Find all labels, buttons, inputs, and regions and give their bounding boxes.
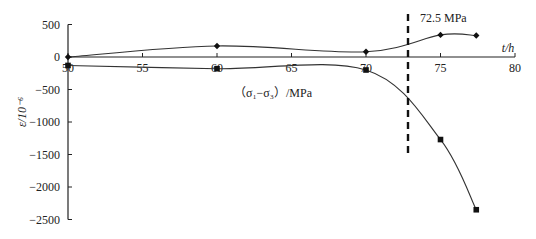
x-tick-label: 55 (137, 61, 149, 75)
y-tick-label: 500 (42, 18, 60, 32)
y-tick-label: −1000 (29, 115, 60, 129)
diamond-marker (214, 43, 220, 49)
x-tick-label: 75 (435, 61, 447, 75)
series-line (68, 34, 476, 57)
y-tick-label: −1500 (29, 148, 60, 162)
y-tick-label: −500 (35, 83, 60, 97)
square-marker (438, 137, 444, 143)
diamond-marker (473, 32, 479, 38)
axes: 5000−500−1000−1500−2000−2500505560657075… (15, 18, 521, 227)
square-marker (473, 207, 479, 213)
stress-axis-label: （σ₁−σ₃）/MPa (234, 86, 313, 100)
series-group (65, 32, 480, 213)
x-tick-label: 80 (509, 61, 521, 75)
diamond-marker (363, 49, 369, 55)
square-marker (363, 67, 369, 73)
y-tick-label: −2000 (29, 180, 60, 194)
square-marker (214, 66, 220, 72)
x-tick-label: 65 (286, 61, 298, 75)
diamond-marker (437, 32, 443, 38)
strain-time-chart: 5000−500−1000−1500−2000−2500505560657075… (0, 0, 536, 239)
y-tick-label: 0 (54, 50, 60, 64)
square-marker (65, 63, 71, 69)
x-axis-label: t/h (502, 41, 515, 55)
y-tick-label: −2500 (29, 213, 60, 227)
y-axis-label: ε/10⁻⁶ (15, 97, 29, 127)
threshold-label: 72.5 MPa (420, 11, 467, 25)
diamond-marker (65, 54, 71, 60)
